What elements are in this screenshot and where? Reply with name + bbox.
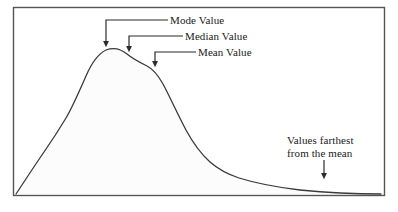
values-farthest-line-1: Values farthest [287, 134, 379, 147]
distribution-figure: Mode Value Median Value Mean Value Value… [0, 0, 398, 212]
mean-value-label: Mean Value [198, 46, 252, 59]
values-farthest-line-2: from the mean [287, 147, 379, 160]
median-value-label: Median Value [185, 30, 247, 43]
mode-value-label: Mode Value [170, 14, 224, 27]
values-farthest-label: Values farthest from the mean [287, 134, 379, 159]
